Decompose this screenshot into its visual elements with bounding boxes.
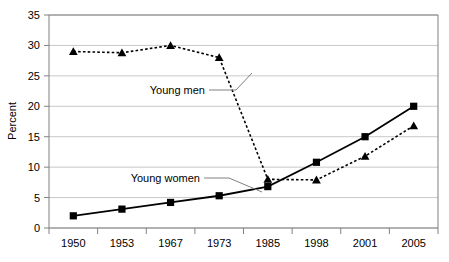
- chart-container: 05101520253035 1950195319671973198519982…: [0, 0, 449, 262]
- y-tick-label-20: 20: [28, 100, 40, 112]
- marker-young-women-2005: [410, 103, 417, 110]
- marker-young-women-1998: [313, 159, 320, 166]
- x-tick-label-1973: 1973: [207, 237, 231, 249]
- x-tick-label-1967: 1967: [158, 237, 182, 249]
- x-axis: 19501953196719731985199820012005: [49, 228, 438, 249]
- x-tick-label-1950: 1950: [61, 237, 85, 249]
- line-chart: 05101520253035 1950195319671973198519982…: [0, 0, 449, 262]
- y-axis-title: Percent: [6, 102, 18, 140]
- x-tick-label-1985: 1985: [256, 237, 280, 249]
- annotation-young-men: Young men: [150, 84, 205, 96]
- marker-young-women-1953: [118, 206, 125, 213]
- y-axis: 05101520253035: [28, 9, 49, 234]
- x-tick-label-1953: 1953: [110, 237, 134, 249]
- y-tick-label-15: 15: [28, 131, 40, 143]
- marker-young-women-1973: [216, 192, 223, 199]
- plot-background: [49, 15, 438, 228]
- y-tick-label-10: 10: [28, 161, 40, 173]
- y-tick-label-0: 0: [34, 222, 40, 234]
- marker-young-women-1950: [70, 212, 77, 219]
- marker-young-women-1985: [264, 183, 271, 190]
- y-tick-label-25: 25: [28, 70, 40, 82]
- x-tick-label-2001: 2001: [353, 237, 377, 249]
- x-tick-label-2005: 2005: [401, 237, 425, 249]
- x-tick-label-1998: 1998: [304, 237, 328, 249]
- marker-young-women-2001: [361, 133, 368, 140]
- y-tick-label-30: 30: [28, 39, 40, 51]
- y-tick-label-35: 35: [28, 9, 40, 21]
- annotation-young-women: Young women: [131, 172, 200, 184]
- marker-young-women-1967: [167, 199, 174, 206]
- y-tick-label-5: 5: [34, 192, 40, 204]
